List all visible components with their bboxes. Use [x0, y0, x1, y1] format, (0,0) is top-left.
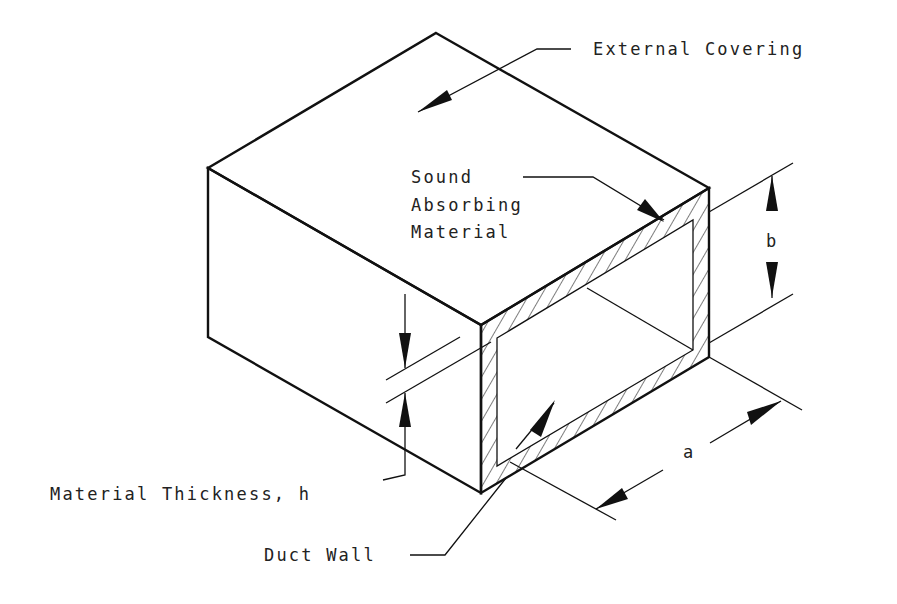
sound-label-line2: Absorbing	[411, 195, 523, 215]
material-thickness-label: Material Thickness, h	[50, 484, 311, 504]
left-face	[208, 168, 481, 493]
sound-label-line3: Material	[411, 222, 510, 242]
duct-box	[208, 33, 709, 493]
sound-absorbing-callout: Sound Absorbing Material	[411, 167, 664, 242]
duct-wall-label: Duct Wall	[264, 545, 376, 565]
dimension-b: b	[709, 163, 793, 343]
lining-outer-edge	[481, 188, 709, 493]
duct-diagram: External Covering Sound Absorbing Materi…	[0, 0, 897, 604]
dimension-b-label: b	[766, 231, 778, 251]
material-thickness-dimension: Material Thickness, h	[50, 294, 491, 504]
external-covering-label: External Covering	[593, 39, 804, 59]
dimension-a-label: a	[683, 442, 695, 462]
external-covering-callout: External Covering	[418, 39, 804, 112]
sound-label-line1: Sound	[411, 167, 473, 187]
duct-interior	[587, 288, 693, 350]
